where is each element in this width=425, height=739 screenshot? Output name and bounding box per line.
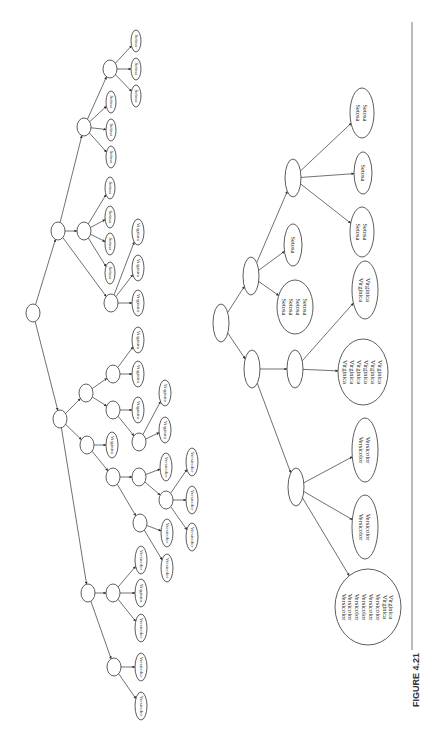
leaf-node: Virginica [159,380,171,406]
tree-edge [87,77,106,119]
decision-node [104,294,118,312]
leaf-class-label: Setosa [109,150,114,164]
node-ellipse [213,304,229,342]
leaf-class-label: Setosa [362,105,369,122]
tree-edge [259,251,285,270]
decision-node [77,222,91,240]
leaf-class-label: Setosa [109,95,114,109]
leaf-class-label: Versicolor [358,437,365,465]
decision-node [132,468,146,486]
leaf-class-label: Setosa [295,299,302,316]
leaf-node: Versicolor [186,523,198,551]
tree-edge [145,482,160,495]
node-ellipse [244,350,260,388]
leaf-class-label: Setosa [362,224,369,241]
leaf-class-label: Versicolor [190,490,195,511]
decision-node [51,222,65,240]
leaf-class-label: Versicolor [365,437,372,465]
tree-edge [91,128,106,130]
decision-node [77,118,91,136]
tree-edge [300,123,351,171]
node-ellipse [104,294,118,312]
leaf-node: SetosaSetosa [350,207,374,257]
tree-edge [92,451,108,471]
leaf-class-label: Versicolor [139,618,144,639]
node-ellipse [132,468,146,486]
decision-node [53,410,67,428]
leaf-class-label: Versicolor [139,657,144,678]
decision-node [106,468,120,486]
node-ellipse [81,584,95,602]
node-ellipse [132,433,146,451]
leaf-class-label: Versicolor [139,696,144,717]
leaf-class-label: Versicolor [347,594,354,622]
decision-node [159,491,173,509]
node-ellipse [106,401,120,419]
leaf-node: SetosaSetosaSetosaSetosa [277,280,313,334]
leaf-class-label: Setosa [134,89,139,103]
leaf-node: Setosa [131,30,141,52]
tree-edge [66,424,82,439]
tree-edge [91,234,106,241]
node-ellipse [51,222,65,240]
tree-edge [171,507,187,530]
decision-node [106,401,120,419]
leaf-class-label: Virginica [136,223,141,242]
leaf-class-label: Versicolor [190,527,195,548]
node-ellipse [106,468,120,486]
leaf-class-label: Versicolor [354,594,361,622]
leaf-node: Setosa [354,152,372,194]
tree-edge [259,281,279,295]
tree-edge [91,601,111,659]
node-ellipse [107,658,121,676]
leaf-class-label: Virginica [163,421,168,440]
leaf-node: Setosa [131,58,141,80]
leaf-class-label: Setosa [109,123,114,137]
leaf-class-label: Virginica [388,595,395,619]
decision-node [79,384,93,402]
leaf-node: Versicolor [161,519,173,547]
leaf-class-label: Virginica [358,278,365,302]
leaf-node: Virginica [106,432,118,458]
leaf-node: VirginicaVirginica [352,261,378,319]
tree-edge [146,433,160,439]
leaf-node: VersicolorVersicolor [352,495,378,559]
leaf-class-label: Virginica [136,365,141,384]
leaf-class-label: Setosa [134,34,139,48]
figure-caption: FIGURE 4.21 [411,653,421,707]
leaf-class-label: Virginica [136,401,141,420]
tree-edge [118,416,134,436]
leaf-class-label: Setosa [288,299,295,316]
leaf-class-label: Versicolor [165,558,170,579]
leaf-class-label: Virginica [342,360,349,384]
leaf-node: Virginica [132,290,144,316]
tree-edge [147,525,161,530]
leaf-class-label: Versicolor [358,514,365,542]
leaf-class-label: Versicolor [139,550,144,571]
leaf-class-label: Setosa [355,105,362,122]
leaf-node: Virginica [132,361,144,387]
leaf-node: Versicolor [186,448,198,476]
node-ellipse [77,118,91,136]
leaf-class-label: Versicolor [164,457,169,478]
node-ellipse [287,350,303,388]
nodes-layer: SetosaSetosaSetosaSetosaSetosaSetosaSeto… [26,30,401,720]
node-ellipse [106,584,120,602]
tree-edge [257,383,290,473]
leaf-node: SetosaSetosa [350,88,374,138]
decision-node [288,468,304,506]
tree-edge [171,469,187,493]
leaf-class-label: Virginica [349,360,356,384]
leaf-class-label: Virginica [110,436,115,455]
decision-node [244,350,260,388]
leaf-node: VersicolorVersicolorVersicolorVersicolor… [335,569,401,645]
leaf-node: Versicolor [135,614,147,642]
tree-edge [303,369,338,371]
tree-edge [92,378,107,388]
leaf-node: Virginica [132,327,144,353]
leaf-node: Setosa [105,233,115,255]
node-ellipse [53,410,67,428]
decision-node [107,658,121,676]
tree-edge [304,457,352,483]
leaf-node: Virginica [132,219,144,245]
